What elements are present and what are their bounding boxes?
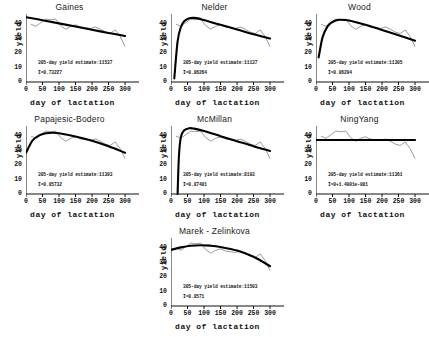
- xtick-label: 300: [261, 310, 279, 317]
- y-axis-label-nelder: yield: [160, 14, 168, 54]
- xtick-label: 0: [307, 86, 325, 93]
- xtick-label: 250: [390, 86, 408, 93]
- y-axis-label-wood: yield: [305, 14, 313, 54]
- yield-estimate-annotation-wood: 305-day yield estimate:11305: [328, 60, 402, 66]
- y-axis-label-ningyang: yield: [305, 126, 313, 166]
- xtick-label: 300: [116, 86, 134, 93]
- observed-yield-line-papajesic-bodero: [31, 131, 125, 158]
- x-axis-label-mcmillan: day of lactation: [155, 210, 280, 219]
- r-value-annotation-mcmillan: I=0.87481: [183, 182, 207, 188]
- xtick-label: 150: [212, 310, 230, 317]
- ytick-label: 10: [151, 176, 167, 183]
- ytick-label: 0: [151, 190, 167, 197]
- ytick-label: 0: [6, 190, 22, 197]
- xtick-label: 100: [195, 198, 213, 205]
- fitted-curve-marek-zelinkova: [171, 245, 270, 266]
- r-value-annotation-papajesic-bodero: I=0.85732: [38, 182, 62, 188]
- xtick-label: 150: [357, 86, 375, 93]
- y-axis-label-gaines: yield: [15, 14, 23, 54]
- ytick-label: 0: [6, 78, 22, 85]
- panel-title-nelder: Nelder: [145, 2, 284, 12]
- xtick-label: 150: [357, 198, 375, 205]
- xtick-label: 200: [228, 198, 246, 205]
- xtick-label: 250: [390, 198, 408, 205]
- xtick-label: 300: [406, 198, 424, 205]
- panel-title-ningyang: NingYang: [290, 114, 429, 124]
- x-axis-label-ningyang: day of lactation: [300, 210, 425, 219]
- plot-svg-nelder: [171, 14, 289, 92]
- plot-svg-mcmillan: [171, 126, 289, 204]
- xtick-label: 0: [162, 86, 180, 93]
- r-value-annotation-gaines: I=0.73227: [38, 70, 62, 76]
- r-value-annotation-ningyang: I=0+1.4901e-081: [328, 182, 368, 188]
- xtick-label: 200: [228, 310, 246, 317]
- xtick-label: 100: [340, 198, 358, 205]
- panel-nelder: Nelder010203040050100150200250300yieldda…: [145, 2, 284, 114]
- ytick-label: 0: [151, 302, 167, 309]
- observed-yield-line-wood: [321, 19, 415, 46]
- xtick-label: 50: [324, 198, 342, 205]
- yield-estimate-annotation-ningyang: 305-day yield estimate:11361: [328, 172, 402, 178]
- xtick-label: 250: [100, 86, 118, 93]
- observed-yield-line-nelder: [176, 19, 270, 46]
- panel-title-wood: Wood: [290, 2, 429, 12]
- yield-estimate-annotation-marek-zelinkova: 305-day yield estimate:11503: [183, 284, 257, 290]
- panel-title-papajesic-bodero: Papajesic-Bodero: [0, 114, 139, 124]
- yield-estimate-annotation-papajesic-bodero: 305-day yield estimate:11393: [38, 172, 112, 178]
- x-axis-label-marek-zelinkova: day of lactation: [155, 322, 280, 331]
- xtick-label: 100: [50, 198, 68, 205]
- figure-panel-grid: Gaines010203040050100150200250300yieldda…: [0, 0, 429, 337]
- ytick-label: 0: [296, 190, 312, 197]
- plot-svg-gaines: [26, 14, 144, 92]
- plot-svg-ningyang: [316, 126, 429, 204]
- y-axis-label-marek-zelinkova: yield: [160, 238, 168, 278]
- ytick-label: 10: [296, 64, 312, 71]
- xtick-label: 0: [307, 198, 325, 205]
- y-axis-label-mcmillan: yield: [160, 126, 168, 166]
- xtick-label: 50: [324, 86, 342, 93]
- ytick-label: 10: [296, 176, 312, 183]
- fitted-curve-papajesic-bodero: [26, 133, 125, 153]
- xtick-label: 0: [17, 198, 35, 205]
- xtick-label: 200: [228, 86, 246, 93]
- xtick-label: 200: [83, 86, 101, 93]
- panel-title-mcmillan: McMillan: [145, 114, 284, 124]
- yield-estimate-annotation-gaines: 305-day yield estimate:11537: [38, 60, 112, 66]
- xtick-label: 50: [179, 310, 197, 317]
- xtick-label: 100: [195, 310, 213, 317]
- xtick-label: 100: [340, 86, 358, 93]
- ytick-label: 10: [6, 176, 22, 183]
- xtick-label: 150: [67, 86, 85, 93]
- xtick-label: 200: [373, 198, 391, 205]
- x-axis-label-nelder: day of lactation: [155, 98, 280, 107]
- xtick-label: 300: [261, 198, 279, 205]
- xtick-label: 250: [245, 310, 263, 317]
- ytick-label: 10: [151, 64, 167, 71]
- xtick-label: 300: [261, 86, 279, 93]
- xtick-label: 0: [162, 198, 180, 205]
- panel-marek-zelinkova: Marek - Zelinkova01020304005010015020025…: [145, 226, 284, 337]
- yield-estimate-annotation-nelder: 305-day yield estimate:11137: [183, 60, 257, 66]
- xtick-label: 250: [245, 198, 263, 205]
- ytick-label: 0: [296, 78, 312, 85]
- xtick-label: 0: [17, 86, 35, 93]
- plot-svg-wood: [316, 14, 429, 92]
- x-axis-label-gaines: day of lactation: [10, 98, 135, 107]
- xtick-label: 50: [34, 198, 52, 205]
- ytick-label: 10: [151, 288, 167, 295]
- xtick-label: 150: [212, 198, 230, 205]
- fitted-curve-wood: [319, 20, 415, 58]
- r-value-annotation-marek-zelinkova: I=0.8571: [183, 294, 204, 300]
- xtick-label: 100: [195, 86, 213, 93]
- x-axis-label-wood: day of lactation: [300, 98, 425, 107]
- xtick-label: 300: [406, 86, 424, 93]
- fitted-curve-gaines: [26, 17, 125, 36]
- yield-estimate-annotation-mcmillan: 305-day yield estimate:8193: [183, 172, 255, 178]
- panel-title-gaines: Gaines: [0, 2, 139, 12]
- xtick-label: 100: [50, 86, 68, 93]
- ytick-label: 10: [6, 64, 22, 71]
- observed-yield-line-ningyang: [321, 131, 415, 158]
- xtick-label: 150: [212, 86, 230, 93]
- panel-title-marek-zelinkova: Marek - Zelinkova: [145, 226, 284, 236]
- xtick-label: 150: [67, 198, 85, 205]
